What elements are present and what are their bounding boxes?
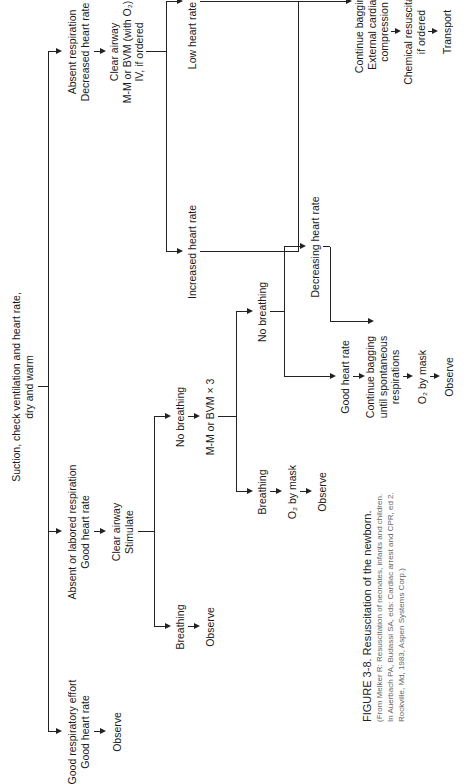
label: Absent respiration xyxy=(66,3,79,102)
o2-by-mask-node: O₂ by mask xyxy=(416,350,429,404)
labored-node: Absent or labored respiration Good heart… xyxy=(66,465,91,600)
label: until spontaneous xyxy=(377,336,390,418)
continue-bagging-node: Continue bagging until spontaneous respi… xyxy=(364,336,402,418)
breathing-node: Breathing xyxy=(256,470,269,515)
absent-respiration-node: Absent respiration Decreased heart rate xyxy=(66,3,91,102)
label: Chemical resuscitation xyxy=(402,0,415,85)
arrow-down-icon xyxy=(432,28,438,34)
no-breathing-node: No breathing xyxy=(174,387,187,447)
label: if ordered xyxy=(414,0,427,85)
breathing-node: Breathing xyxy=(174,605,187,650)
arrow-down-icon xyxy=(368,318,374,324)
caption-title: FIGURE 3-8. Resuscitation of the newborn… xyxy=(360,492,374,722)
arrow-down-icon xyxy=(165,623,171,629)
connector xyxy=(298,247,299,252)
connector xyxy=(200,1,350,2)
label: Continue bagging xyxy=(364,336,377,418)
root-node: Suction, check ventilation and heart rat… xyxy=(10,292,35,482)
transport-node: Transport xyxy=(441,10,454,55)
root-line-1: Suction, check ventilation and heart rat… xyxy=(10,292,23,482)
connector xyxy=(270,311,284,312)
arrow-down-icon xyxy=(100,728,106,734)
clear-airway-stimulate-node: Clear airway Stimulate xyxy=(110,503,135,561)
connector xyxy=(146,51,166,52)
clear-airway-bvm-node: Clear airway M-M or BVM (with O₂) IV, if… xyxy=(108,1,146,104)
arrow-down-icon xyxy=(56,528,62,534)
root-line-2: dry and warm xyxy=(22,292,35,482)
arrow-down-icon xyxy=(177,0,183,4)
observe-node: Observe xyxy=(316,472,329,512)
arrow-down-icon xyxy=(194,623,200,629)
connector xyxy=(138,531,154,532)
arrow-down-icon xyxy=(100,528,106,534)
label: Clear airway xyxy=(108,1,121,104)
arrow-down-icon xyxy=(100,48,106,54)
connector xyxy=(218,416,236,417)
connector xyxy=(154,417,155,627)
arrow-down-icon xyxy=(300,243,306,249)
label: Good heart rate xyxy=(78,680,91,784)
no-breathing-node: No breathing xyxy=(256,282,269,342)
arrow-down-icon xyxy=(165,413,171,419)
connector xyxy=(284,247,285,377)
label: IV, if ordered xyxy=(133,1,146,104)
good-heart-rate-node: Good heart rate xyxy=(339,340,352,414)
mm-bvm-x3-node: M-M or BVM × 3 xyxy=(204,379,217,456)
connector xyxy=(330,321,372,322)
connector xyxy=(323,246,330,247)
increased-heart-rate-node: Increased heart rate xyxy=(186,205,199,299)
label: compression xyxy=(378,0,391,73)
label: Stimulate xyxy=(122,503,135,561)
observe-node: Observe xyxy=(443,357,456,397)
chemical-resuscitation-node: Chemical resuscitation if ordered xyxy=(402,0,427,85)
label: Continue bagging xyxy=(353,0,366,73)
arrow-down-icon xyxy=(407,373,413,379)
connector xyxy=(330,247,331,322)
connector xyxy=(236,312,237,492)
connector xyxy=(284,376,334,377)
arrow-down-icon xyxy=(194,413,200,419)
connector xyxy=(48,52,49,732)
caption-source: (From Melker R: Resuscitation of neonate… xyxy=(374,492,407,722)
arrow-down-icon xyxy=(346,0,352,4)
arrow-down-icon xyxy=(56,48,62,54)
label: Good heart rate xyxy=(78,465,91,600)
arrow-down-icon xyxy=(276,488,282,494)
arrow-down-icon xyxy=(395,28,401,34)
arrow-down-icon xyxy=(434,373,440,379)
label: External cardiac xyxy=(366,0,379,73)
arrow-down-icon xyxy=(177,248,183,254)
decreasing-heart-rate-node: Decreasing heart rate xyxy=(309,197,322,298)
observe-node: Observe xyxy=(204,607,217,647)
connector xyxy=(298,2,299,247)
low-heart-rate-node: Low heart rate xyxy=(186,2,199,69)
label: M-M or BVM (with O₂) xyxy=(121,1,134,104)
o2-by-mask-node: O₂ by mask xyxy=(286,465,299,519)
label: Absent or labored respiration xyxy=(66,465,79,600)
arrow-down-icon xyxy=(56,728,62,734)
arrow-down-icon xyxy=(247,308,253,314)
arrow-down-icon xyxy=(306,488,312,494)
label: Decreased heart rate xyxy=(78,3,91,102)
continue-bagging-cpr-node: Continue bagging External cardiac compre… xyxy=(353,0,391,73)
arrow-down-icon xyxy=(330,373,336,379)
arrow-down-icon xyxy=(247,488,253,494)
connector xyxy=(166,2,167,252)
connector xyxy=(38,386,48,387)
label: Good respiratory effort xyxy=(66,680,79,784)
observe-node: Observe xyxy=(111,712,124,752)
label: respirations xyxy=(389,336,402,418)
connector xyxy=(200,251,298,252)
label: Clear airway xyxy=(110,503,123,561)
good-effort-node: Good respiratory effort Good heart rate xyxy=(66,680,91,784)
figure-caption: FIGURE 3-8. Resuscitation of the newborn… xyxy=(360,492,407,722)
